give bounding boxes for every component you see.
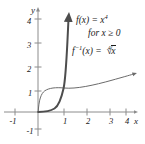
function-equation-exponent: 4	[105, 13, 108, 20]
curve-function-x4	[38, 21, 68, 112]
y-tick-label-1: 1	[26, 88, 34, 98]
inverse-equation-arg: (x) =	[82, 46, 101, 56]
x-tick-label-3: 3	[107, 116, 115, 126]
x-tick-label-4: 4	[123, 116, 131, 126]
inverse-function-equation-label: f−1(x) = 4√x	[72, 45, 118, 57]
fourth-root-expression: 4√x	[104, 46, 118, 57]
domain-condition-label: for x ≥ 0	[88, 29, 120, 39]
radicand: x	[111, 45, 116, 56]
y-tick-label-4: 4	[25, 16, 33, 26]
x-axis-label: x	[134, 116, 138, 126]
x-tick-label-1: 1	[61, 116, 69, 126]
y-tick-label-3: 3	[25, 40, 33, 50]
y-axis-label: y	[31, 5, 35, 15]
curve-inverse-fourth-root	[38, 74, 133, 112]
x-tick-label-neg1: -1	[8, 116, 18, 126]
function-equation-arg: (x) =	[79, 15, 98, 25]
math-figure: y x -1 1 2 3 4 4 3 2 1 -1 f(x) = x4 for …	[0, 0, 145, 144]
function-equation-label: f(x) = x4	[76, 14, 108, 26]
y-tick-label-2: 2	[25, 64, 33, 74]
x-tick-label-2: 2	[84, 116, 92, 126]
y-tick-label-neg1: -1	[24, 126, 36, 136]
